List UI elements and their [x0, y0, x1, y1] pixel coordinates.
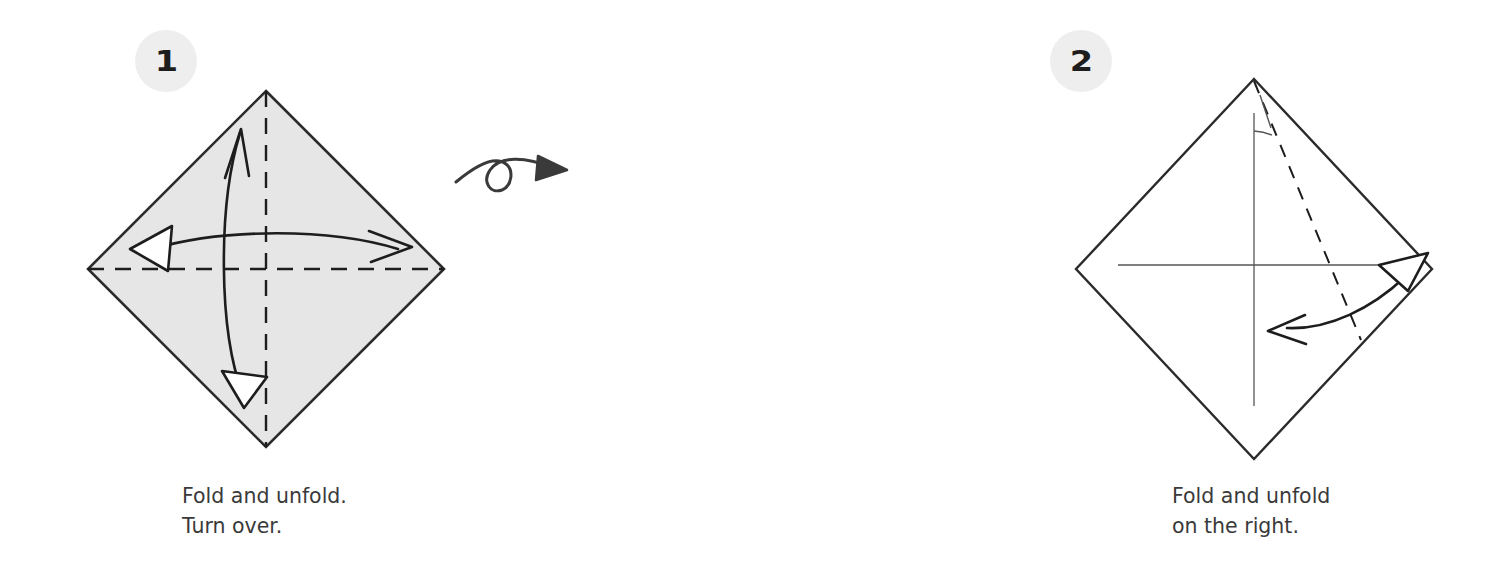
step-1-diagram	[0, 0, 500, 470]
step-2: 2	[500, 0, 1000, 586]
step-1-caption: Fold and unfold.Turn over.	[182, 481, 347, 541]
step-3: 3	[1000, 0, 1493, 586]
instruction-sheet: 1	[0, 0, 1493, 586]
caption-line: Turn over.	[182, 514, 282, 538]
step-1: 1	[0, 0, 500, 586]
caption-line: Fold and unfold.	[182, 484, 347, 508]
